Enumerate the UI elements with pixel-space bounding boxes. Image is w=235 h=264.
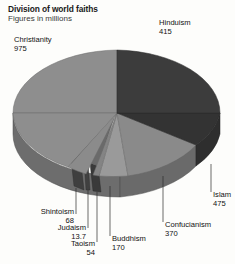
label-judaism-name: Judaism <box>58 223 86 232</box>
label-taoism: Taoism 54 <box>0 240 95 257</box>
slice-hinduism <box>117 50 220 113</box>
slice-christianity <box>13 50 117 113</box>
label-christianity-value: 975 <box>14 45 52 54</box>
label-islam-value: 475 <box>213 200 231 209</box>
label-buddhism-value: 170 <box>112 244 146 253</box>
label-confucianism-value: 370 <box>165 230 211 239</box>
label-shintoism-name: Shintoism <box>41 207 74 216</box>
label-christianity: Christianity 975 <box>14 36 52 53</box>
label-islam-name: Islam <box>213 190 231 199</box>
label-taoism-value: 54 <box>0 249 95 258</box>
label-hinduism-value: 415 <box>159 28 191 37</box>
label-confucianism-name: Confucianism <box>165 220 211 229</box>
label-confucianism: Confucianism 370 <box>165 221 211 238</box>
label-hinduism: Hinduism 415 <box>159 19 191 36</box>
label-buddhism: Buddhism 170 <box>112 235 146 252</box>
label-islam: Islam 475 <box>213 191 231 208</box>
chart-canvas: Division of world faiths Figures in mill… <box>0 0 235 264</box>
label-hinduism-name: Hinduism <box>159 18 191 27</box>
label-christianity-name: Christianity <box>14 35 52 44</box>
label-taoism-name: Taoism <box>71 239 95 248</box>
label-buddhism-name: Buddhism <box>112 234 146 243</box>
